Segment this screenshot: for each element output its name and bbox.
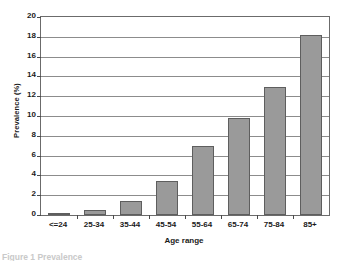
bar xyxy=(264,87,286,215)
bar-slot xyxy=(293,17,329,215)
y-axis-tick-label: 2 xyxy=(14,190,36,198)
bar xyxy=(156,181,178,215)
x-axis-tick-mark xyxy=(185,215,186,219)
x-axis-tick-mark xyxy=(257,215,258,219)
x-axis-tick-mark xyxy=(149,215,150,219)
x-axis-title: Age range xyxy=(40,236,328,245)
x-axis-tick-label: 45-54 xyxy=(148,220,184,230)
y-axis-tick-label: 16 xyxy=(14,52,36,60)
y-axis-tick-label: 18 xyxy=(14,32,36,40)
y-axis-tick-label: 0 xyxy=(14,210,36,218)
x-axis-tick-label: 85+ xyxy=(292,220,328,230)
figure-caption: Figure 1 Prevalence xyxy=(2,252,337,261)
y-axis-tick-label: 8 xyxy=(14,131,36,139)
x-axis-tick-label: 35-44 xyxy=(112,220,148,230)
bar-slot xyxy=(113,17,149,215)
bar-slot xyxy=(221,17,257,215)
bar-chart-figure: Prevalence (%) 20181614121086420 <=2425-… xyxy=(0,0,339,261)
y-axis-tick-label: 14 xyxy=(14,71,36,79)
y-axis-tick-mark xyxy=(37,215,41,216)
bar xyxy=(228,118,250,215)
y-axis-tick-labels: 20181614121086420 xyxy=(14,12,36,216)
bar-slot xyxy=(41,17,77,215)
bar-slot xyxy=(149,17,185,215)
bar xyxy=(84,210,106,215)
y-axis-tick-label: 12 xyxy=(14,91,36,99)
y-axis-tick-label: 4 xyxy=(14,170,36,178)
x-axis-tick-labels: <=2425-3435-4445-5455-6465-7475-8485+ xyxy=(40,220,328,232)
x-axis-tick-mark xyxy=(113,215,114,219)
x-axis-tick-label: 75-84 xyxy=(256,220,292,230)
plot-area xyxy=(40,16,330,216)
x-axis-tick-mark xyxy=(293,215,294,219)
bar-slot xyxy=(185,17,221,215)
x-axis-tick-label: <=24 xyxy=(40,220,76,230)
y-axis-tick-label: 6 xyxy=(14,151,36,159)
bar xyxy=(48,213,70,215)
x-axis-tick-mark xyxy=(221,215,222,219)
bar xyxy=(120,201,142,215)
bar-slot xyxy=(257,17,293,215)
x-axis-tick-label: 65-74 xyxy=(220,220,256,230)
bar xyxy=(192,146,214,215)
x-axis-tick-mark xyxy=(77,215,78,219)
bar xyxy=(300,35,322,215)
y-axis-tick-label: 20 xyxy=(14,12,36,20)
y-axis-tick-label: 10 xyxy=(14,111,36,119)
x-axis-tick-label: 25-34 xyxy=(76,220,112,230)
x-axis-tick-label: 55-64 xyxy=(184,220,220,230)
bar-slot xyxy=(77,17,113,215)
bar-series xyxy=(41,17,329,215)
